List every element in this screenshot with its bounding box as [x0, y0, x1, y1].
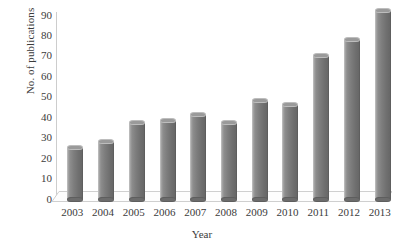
- bar-bottom-ellipse: [221, 197, 237, 202]
- bar[interactable]: [67, 148, 83, 199]
- x-axis-title: Year: [0, 228, 404, 240]
- bar-top-ellipse: [344, 37, 360, 42]
- y-tick-label: 40: [41, 112, 52, 123]
- x-tick-label: 2006: [148, 206, 182, 219]
- x-tick-label: 2012: [332, 206, 366, 219]
- bar-bottom-ellipse: [313, 197, 329, 202]
- x-tick-label: 2004: [86, 206, 120, 219]
- bar-top-ellipse: [129, 120, 145, 125]
- bar-top-ellipse: [221, 120, 237, 125]
- bar-body: [221, 123, 237, 199]
- publications-bar-chart: No. of publications 9080706050403020100 …: [0, 0, 404, 251]
- bar-top-ellipse: [313, 53, 329, 58]
- bar-top-ellipse: [282, 102, 298, 107]
- bar-group: [56, 10, 394, 202]
- y-tick-label: 70: [41, 50, 52, 61]
- bar-bottom-ellipse: [98, 197, 114, 202]
- bar[interactable]: [160, 121, 176, 199]
- bar[interactable]: [221, 123, 237, 199]
- bar-top-ellipse: [160, 118, 176, 123]
- bar[interactable]: [282, 105, 298, 199]
- bar-bottom-ellipse: [129, 197, 145, 202]
- bar-bottom-ellipse: [67, 197, 83, 202]
- bar-body: [67, 148, 83, 199]
- bar-bottom-ellipse: [160, 197, 176, 202]
- bar-bottom-ellipse: [375, 197, 391, 202]
- plot-area: [56, 10, 394, 202]
- bar[interactable]: [190, 115, 206, 199]
- x-tick-label: 2005: [117, 206, 151, 219]
- bar-top-ellipse: [98, 139, 114, 144]
- x-tick-label: 2011: [301, 206, 335, 219]
- bar-top-ellipse: [67, 145, 83, 150]
- bar-top-ellipse: [375, 8, 391, 13]
- x-axis-ticks: 2003200420052006200720082009201020112012…: [56, 206, 394, 222]
- x-tick-label: 2013: [363, 206, 397, 219]
- x-tick-label: 2010: [270, 206, 304, 219]
- bar-top-ellipse: [190, 112, 206, 117]
- y-tick-label: 80: [41, 30, 52, 41]
- bar-body: [129, 123, 145, 199]
- x-tick-label: 2008: [209, 206, 243, 219]
- y-tick-label: 10: [41, 173, 52, 184]
- bar-body: [313, 56, 329, 199]
- bar[interactable]: [129, 123, 145, 199]
- bar-body: [160, 121, 176, 199]
- y-axis-ticks: 9080706050403020100: [28, 10, 52, 202]
- x-tick-label: 2009: [240, 206, 274, 219]
- bar-bottom-ellipse: [252, 197, 268, 202]
- bar-bottom-ellipse: [344, 197, 360, 202]
- bar-bottom-ellipse: [282, 197, 298, 202]
- y-tick-label: 50: [41, 91, 52, 102]
- bar[interactable]: [375, 11, 391, 199]
- bar[interactable]: [313, 56, 329, 199]
- y-tick-label: 90: [41, 10, 52, 21]
- bar-bottom-ellipse: [190, 197, 206, 202]
- bar-body: [375, 11, 391, 199]
- bar-body: [282, 105, 298, 199]
- bar[interactable]: [344, 40, 360, 199]
- bar-body: [190, 115, 206, 199]
- x-tick-label: 2007: [178, 206, 212, 219]
- y-tick-label: 60: [41, 71, 52, 82]
- bar-body: [98, 142, 114, 199]
- bar[interactable]: [252, 101, 268, 199]
- bar[interactable]: [98, 142, 114, 199]
- y-tick-label: 30: [41, 132, 52, 143]
- x-tick-label: 2003: [55, 206, 89, 219]
- y-tick-label: 20: [41, 153, 52, 164]
- bar-top-ellipse: [252, 98, 268, 103]
- bar-body: [344, 40, 360, 199]
- bar-body: [252, 101, 268, 199]
